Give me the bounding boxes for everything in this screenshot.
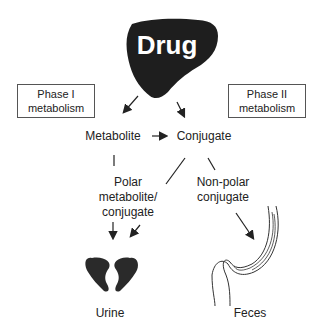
polar-line2: metabolite/ [88, 190, 168, 205]
polar-line3: conjugate [88, 205, 168, 220]
nonpolar-line1: Non-polar [183, 175, 263, 190]
metabolite-label: Metabolite [77, 129, 149, 144]
drug-label: Drug [132, 30, 202, 61]
nonpolar-line2: conjugate [183, 190, 263, 205]
phase1-line2: metabolism [22, 101, 90, 115]
phase2-line1: Phase II [233, 87, 301, 101]
kidneys-icon [85, 258, 138, 292]
polar-label: Polar metabolite/ conjugate [88, 175, 168, 220]
feces-label: Feces [225, 306, 275, 321]
intestine-icon [212, 206, 278, 306]
polar-line1: Polar [88, 175, 168, 190]
conjugate-label: Conjugate [170, 129, 238, 144]
nonpolar-label: Non-polar conjugate [183, 175, 263, 205]
phase2-line2: metabolism [233, 101, 301, 115]
phase1-line1: Phase I [22, 87, 90, 101]
phase2-box: Phase II metabolism [228, 84, 306, 118]
urine-label: Urine [85, 306, 135, 321]
phase1-box: Phase I metabolism [17, 84, 95, 118]
